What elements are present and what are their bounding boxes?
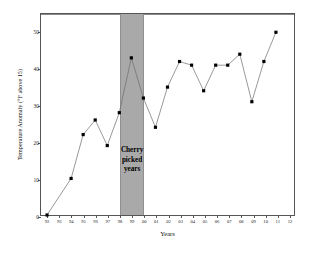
series-line xyxy=(47,32,276,215)
x-axis-tick-label: 10 xyxy=(263,219,268,224)
x-axis-tick-label: 06 xyxy=(215,219,220,224)
series-data-point xyxy=(250,100,253,103)
series-data-point xyxy=(45,213,48,216)
series-data-point xyxy=(94,118,97,121)
x-axis-tick-label: 96 xyxy=(93,219,98,224)
x-axis-tick-label: 01 xyxy=(154,219,159,224)
series-data-point xyxy=(274,31,277,34)
series-data-point xyxy=(154,126,157,129)
x-axis-label: Years xyxy=(40,230,295,237)
x-axis-tick-label: 92 xyxy=(45,219,50,224)
x-axis-tick-label: 02 xyxy=(166,219,171,224)
series-data-point xyxy=(202,89,205,92)
series-markers xyxy=(45,31,277,217)
x-axis-tick-label: 95 xyxy=(81,219,86,224)
series-plot xyxy=(41,14,294,215)
x-axis-tick-label: 12 xyxy=(288,219,293,224)
x-axis-tick-label: 93 xyxy=(57,219,62,224)
x-axis-tick-label: 99 xyxy=(130,219,135,224)
series-data-point xyxy=(142,96,145,99)
series-data-point xyxy=(190,64,193,67)
x-axis-tick-label: 08 xyxy=(239,219,244,224)
y-axis-tick-label: 10 xyxy=(34,177,39,183)
x-axis-tick-label: 05 xyxy=(203,219,208,224)
series-data-point xyxy=(118,111,121,114)
plot-area: Cherry picked years 01020304050 92939495… xyxy=(40,13,295,216)
y-axis-tick-label: 20 xyxy=(34,140,39,146)
x-axis-tick-label: 97 xyxy=(105,219,110,224)
y-axis-tick-label: 0 xyxy=(36,214,39,220)
x-axis-tick-label: 94 xyxy=(69,219,74,224)
series-data-point xyxy=(238,53,241,56)
y-axis-tick-label: 40 xyxy=(34,66,39,72)
x-axis-tick-label: 98 xyxy=(118,219,123,224)
x-axis-tick-label: 11 xyxy=(276,219,280,224)
series-data-point xyxy=(226,64,229,67)
y-axis-tick-label: 30 xyxy=(34,103,39,109)
series-data-point xyxy=(166,86,169,89)
x-axis-tick-label: 04 xyxy=(190,219,195,224)
x-axis-tick-label: 03 xyxy=(178,219,183,224)
series-data-point xyxy=(106,144,109,147)
y-axis-label: Temperature Anomaly (°F above 15) xyxy=(14,13,26,216)
series-data-point xyxy=(70,177,73,180)
x-axis-tick-label: 09 xyxy=(251,219,256,224)
x-axis-tick-label: 00 xyxy=(142,219,147,224)
series-data-point xyxy=(82,133,85,136)
y-axis-tick-label: 50 xyxy=(34,29,39,35)
series-data-point xyxy=(178,60,181,63)
series-data-point xyxy=(262,60,265,63)
chart-figure: How Cherry Picking Works Temperature Ano… xyxy=(0,0,311,257)
series-data-point xyxy=(214,64,217,67)
series-data-point xyxy=(130,56,133,59)
x-axis-tick-label: 07 xyxy=(227,219,232,224)
